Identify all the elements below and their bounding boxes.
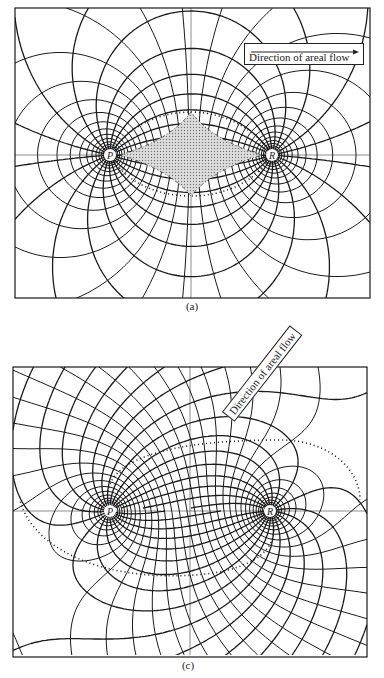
well-p-label: P bbox=[106, 506, 113, 517]
streamline bbox=[110, 417, 298, 510]
well-r-label: R bbox=[266, 506, 273, 517]
well-p-label: P bbox=[106, 150, 113, 161]
caption-a: (a) bbox=[172, 300, 212, 312]
flow-direction-arrow-icon bbox=[249, 45, 359, 51]
legend-box-a: Direction of areal flow bbox=[244, 43, 364, 65]
streamline bbox=[40, 367, 280, 658]
well-r-label: R bbox=[268, 150, 275, 161]
equipotential-line bbox=[154, 367, 336, 658]
flow-net-figure: PR PR bbox=[0, 0, 384, 678]
panel-c: PR bbox=[13, 367, 367, 658]
caption-c: (c) bbox=[168, 659, 208, 671]
panel-clip bbox=[13, 367, 367, 658]
equipotential-line bbox=[13, 423, 162, 658]
streamline bbox=[112, 511, 221, 520]
equipotential-line bbox=[13, 463, 146, 658]
